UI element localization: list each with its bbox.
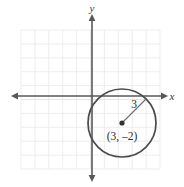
coordinate-plane-svg: x y 3 (3, –2) <box>0 0 184 187</box>
circle-graph-figure: x y 3 (3, –2) <box>0 0 184 187</box>
center-coordinate-label: (3, –2) <box>107 130 138 143</box>
y-axis <box>89 14 96 182</box>
y-axis-up-arrow-icon <box>89 14 96 21</box>
center-point-marker <box>119 120 124 125</box>
y-axis-label: y <box>89 2 95 14</box>
grid-lines <box>21 30 160 169</box>
y-axis-down-arrow-icon <box>89 175 96 182</box>
x-axis-label: x <box>169 90 175 102</box>
radius-length-label: 3 <box>131 98 137 110</box>
x-axis-right-arrow-icon <box>161 93 168 100</box>
x-axis-left-arrow-icon <box>11 93 18 100</box>
